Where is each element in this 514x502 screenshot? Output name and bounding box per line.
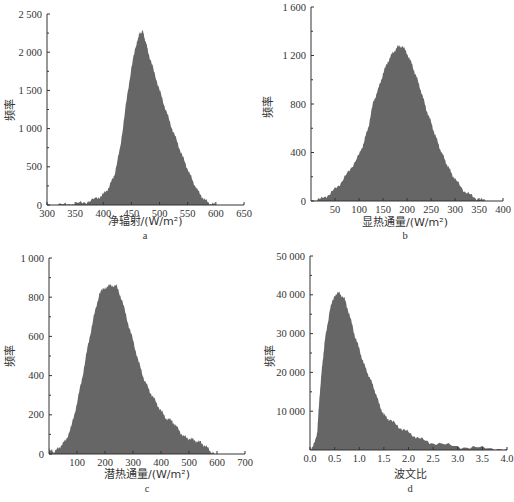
panel-subtitle: a: [143, 230, 148, 241]
y-tick-label: 800: [28, 292, 44, 303]
x-tick-label: 50: [330, 204, 341, 215]
figure: 05001 0001 5002 0002 5003003504004505005…: [0, 0, 514, 502]
y-tick-label: 10 000: [276, 406, 305, 417]
histogram-area: [310, 292, 507, 450]
x-tick-label: 350: [471, 204, 487, 215]
y-tick-label: 40 000: [276, 289, 305, 300]
panel-subtitle: c: [145, 483, 150, 494]
y-tick-label: 20 000: [276, 367, 305, 378]
x-tick-label: 200: [399, 204, 415, 215]
y-tick-label: 1 500: [18, 85, 42, 96]
y-tick-label: 200: [28, 409, 44, 420]
x-tick-label: 1.5: [377, 453, 390, 464]
x-tick-label: 3.5: [476, 453, 489, 464]
x-axis-label: 净辐射/(W/m²): [108, 214, 183, 228]
y-axis-label: 频率: [261, 96, 275, 118]
panel-c: 02004006008001 000100200300400500600700潜…: [3, 253, 253, 495]
panel-subtitle: d: [407, 483, 413, 494]
y-tick-label: 1 000: [20, 253, 44, 264]
x-tick-label: 4.0: [500, 453, 513, 464]
panel-a: 05001 0001 5002 0002 5003003504004505005…: [3, 9, 252, 242]
y-tick-label: 0: [301, 196, 306, 207]
y-tick-label: 2 000: [18, 47, 42, 58]
y-tick-label: 2 500: [18, 9, 42, 20]
x-tick-label: 1.0: [353, 453, 366, 464]
x-tick-label: 2.5: [427, 453, 440, 464]
x-tick-label: 300: [125, 457, 141, 468]
y-axis-label: 频率: [3, 99, 17, 121]
histogram-area: [311, 45, 489, 201]
x-tick-label: 3.0: [451, 453, 464, 464]
x-axis-label: 波文比: [394, 467, 427, 481]
x-tick-label: 100: [351, 204, 367, 215]
x-tick-label: 350: [67, 208, 83, 219]
x-tick-label: 0.0: [303, 453, 316, 464]
x-tick-label: 400: [495, 204, 511, 215]
y-tick-label: 30 000: [276, 328, 305, 339]
y-tick-label: 800: [290, 99, 306, 110]
panel-subtitle: b: [402, 230, 407, 241]
panel-b: 04008001 2001 60050100150200250300350400…: [261, 2, 511, 242]
x-tick-label: 600: [208, 208, 224, 219]
x-tick-label: 150: [375, 204, 391, 215]
panel-d: 10 00020 00030 00040 00050 0000.00.51.01…: [263, 251, 514, 495]
histogram-area: [47, 29, 216, 205]
x-tick-label: 300: [39, 208, 55, 219]
y-tick-label: 400: [290, 147, 306, 158]
x-axis-label: 显热通量/(W/m²): [362, 216, 448, 229]
y-axis-label: 频率: [263, 345, 277, 367]
y-tick-label: 400: [28, 370, 44, 381]
x-tick-label: 700: [237, 457, 253, 468]
x-tick-label: 300: [447, 204, 463, 215]
y-tick-label: 1 600: [282, 2, 306, 13]
y-tick-label: 500: [26, 161, 42, 172]
y-tick-label: 50 000: [276, 251, 305, 262]
x-axis-label: 潜热通量/(W/m²): [104, 467, 190, 481]
y-tick-label: 600: [28, 331, 44, 342]
y-axis-label: 频率: [3, 345, 17, 367]
x-tick-label: 500: [181, 457, 197, 468]
x-tick-label: 250: [423, 204, 439, 215]
x-tick-label: 2.0: [402, 453, 415, 464]
x-tick-label: 0.5: [328, 453, 341, 464]
x-tick-label: 400: [153, 457, 169, 468]
x-tick-label: 600: [209, 457, 225, 468]
x-tick-label: 650: [236, 208, 252, 219]
y-tick-label: 1 200: [282, 50, 306, 61]
histogram-area: [49, 284, 214, 454]
x-tick-label: 100: [69, 457, 85, 468]
x-tick-label: 200: [97, 457, 113, 468]
y-tick-label: 1 000: [18, 123, 42, 134]
y-tick-label: 0: [39, 449, 44, 460]
